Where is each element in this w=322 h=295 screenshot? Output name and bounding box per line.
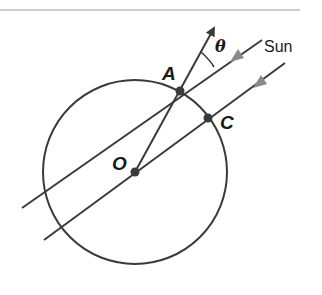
label-angle-theta: θ: [215, 37, 226, 56]
point-c-dot: [204, 114, 213, 123]
angle-theta-arc: [201, 52, 214, 67]
label-point-c: C: [220, 112, 234, 133]
radius-arrow: [135, 28, 214, 172]
label-point-a: A: [161, 63, 176, 84]
label-point-o: O: [112, 153, 127, 174]
geometry-diagram: A C O θ Sun: [0, 0, 322, 295]
ray-direction-arrow-icon: [230, 49, 244, 62]
label-sun: Sun: [264, 38, 292, 55]
point-o-dot: [131, 168, 140, 177]
point-a-dot: [176, 87, 185, 96]
sun-ray-through-o-c: [44, 63, 285, 240]
